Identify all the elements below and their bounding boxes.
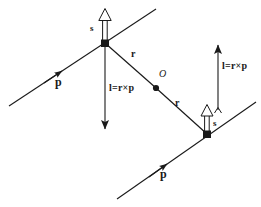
radius-label-lower: r bbox=[175, 98, 179, 108]
lower-particle-marker bbox=[203, 131, 211, 139]
angular-momentum-label-right: l=r×p bbox=[222, 61, 247, 71]
upper-spin-vector bbox=[99, 9, 111, 45]
right-angular-momentum-vector bbox=[215, 45, 222, 113]
momentum-label-upper: p bbox=[55, 76, 62, 88]
spin-label-upper: s bbox=[90, 24, 94, 33]
angular-momentum-label-left: l=r×p bbox=[109, 83, 134, 93]
radius-label-upper: r bbox=[131, 49, 135, 59]
momentum-label-lower: p bbox=[160, 168, 167, 180]
upper-particle-marker bbox=[101, 40, 109, 48]
origin-label: O bbox=[159, 69, 166, 79]
diagram-canvas bbox=[0, 0, 261, 207]
spin-label-lower: s bbox=[213, 119, 217, 128]
origin-point-marker bbox=[153, 85, 159, 91]
lower-momentum-line bbox=[117, 102, 256, 199]
angular-momentum-diagram: p p s s r r O l=r×p l=r×p bbox=[0, 0, 261, 207]
